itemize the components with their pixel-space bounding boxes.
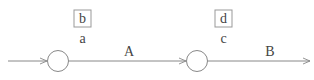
node-box-label-2: d xyxy=(220,11,227,26)
node-label-2: c xyxy=(220,31,226,46)
node-circle-1 xyxy=(48,51,69,72)
node-box-label-1: b xyxy=(79,11,86,26)
node-circle-2 xyxy=(187,51,208,72)
edge-label-B: B xyxy=(265,44,274,59)
node-label-1: a xyxy=(79,31,86,46)
diagram-canvas: b a A d c B xyxy=(0,0,314,80)
edge-label-A: A xyxy=(124,44,135,59)
